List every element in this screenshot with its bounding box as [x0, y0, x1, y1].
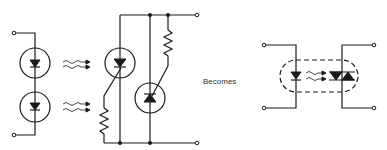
led-2-icon: [30, 103, 40, 110]
scr-gate-resistor: [100, 108, 108, 143]
terminal-opto-out-top: [372, 43, 376, 47]
light-rays-icon: [63, 60, 90, 112]
scr-triac-circuit: [100, 13, 199, 145]
terminal-output-bottom: [195, 141, 199, 145]
terminal-input-top: [12, 31, 16, 35]
terminal-opto-in-bottom: [262, 106, 266, 110]
triac-gate-resistor: [164, 30, 172, 66]
terminal-opto-out-bottom: [372, 106, 376, 110]
terminal-opto-in-top: [262, 43, 266, 47]
opto-triac-icon: [330, 72, 342, 80]
scr-icon: [114, 59, 126, 67]
opto-led-icon: [291, 72, 301, 79]
led-1-icon: [30, 60, 40, 67]
becomes-label: Becomes: [203, 77, 236, 86]
terminal-output-top: [195, 13, 199, 17]
circuit-diagram: [0, 0, 387, 150]
input-led-pair: [12, 31, 50, 137]
optocoupler-equivalent: [262, 43, 376, 110]
triac-icon: [144, 94, 156, 102]
terminal-input-bottom: [12, 133, 16, 137]
